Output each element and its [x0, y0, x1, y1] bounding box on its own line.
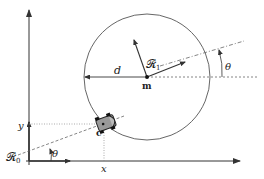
center-point-label: m	[142, 81, 152, 91]
heading-line-right	[160, 41, 244, 66]
robot-point-label: c	[96, 128, 102, 138]
frame0-label: 𝓡0	[6, 151, 20, 165]
angle-origin-label: θ	[52, 148, 58, 159]
y-coord-label: y	[17, 120, 24, 131]
x-coord-label: x	[101, 163, 107, 174]
frame1-label: 𝓡1	[146, 58, 160, 72]
frame-r0-axes	[29, 122, 70, 161]
world-axes	[26, 10, 240, 165]
angle-arc-right	[219, 50, 222, 77]
center-point-m	[145, 75, 149, 79]
distance-label: d	[114, 64, 121, 77]
angle-right-label: θ	[225, 61, 231, 72]
diagram-canvas: 𝓡0 𝓡1 d m c θ θ x y	[0, 0, 264, 179]
